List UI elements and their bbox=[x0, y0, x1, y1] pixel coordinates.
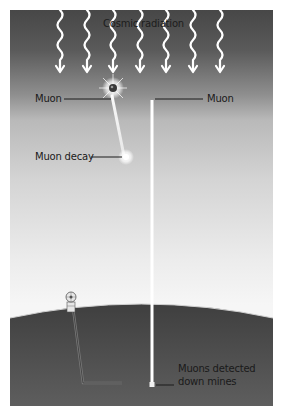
wavy-arrow-icon bbox=[189, 10, 197, 72]
muon-decay-label: Muon decay bbox=[35, 151, 94, 162]
muon-label-left: Muon bbox=[35, 93, 62, 104]
particle-burst-icon bbox=[99, 74, 127, 102]
muon-label-right: Muon bbox=[207, 93, 234, 104]
muons-detected-label-line1: Muons detected bbox=[178, 363, 256, 374]
wavy-arrow-icon bbox=[56, 10, 64, 72]
muon-trail-short bbox=[112, 96, 124, 156]
muons-detected-label-line2: down mines bbox=[178, 376, 236, 387]
wavy-arrow-icon bbox=[216, 10, 224, 72]
diagram-panel: Cosmic radiation Muon Muon Muon decay Mu… bbox=[10, 10, 273, 406]
earth-surface bbox=[10, 304, 273, 406]
diagram-artwork bbox=[10, 10, 273, 406]
wavy-arrow-icon bbox=[83, 10, 91, 72]
cosmic-radiation-label: Cosmic radiation bbox=[103, 18, 184, 29]
